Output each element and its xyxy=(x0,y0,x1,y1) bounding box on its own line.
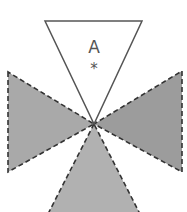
triangle-label: A xyxy=(88,37,100,57)
diagram-canvas: A * xyxy=(0,0,187,212)
asterisk-marker: * xyxy=(90,60,98,78)
